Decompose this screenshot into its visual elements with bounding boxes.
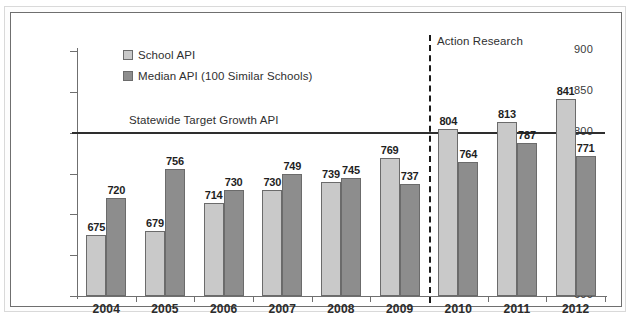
bar-2007-school-api[interactable] [262,190,282,296]
bar-2009-median-api[interactable] [400,184,420,296]
bar-2004-school-api[interactable] [86,235,106,296]
bar-2004-median-api[interactable] [106,198,126,296]
bar-value-label-2010-school-api: 804 [433,115,463,127]
bar-2010-median-api[interactable] [458,162,478,296]
figure-inner-border: School API Median API (100 Similar Schoo… [10,12,622,307]
action-research-divider-line [429,35,431,303]
x-axis-tick-mark [253,296,254,302]
x-axis-category-label-2004: 2004 [77,302,136,316]
bar-2008-median-api[interactable] [341,178,361,296]
y-tick-mark [70,92,77,93]
y-tick-mark [70,214,77,215]
bar-value-label-2011-school-api: 813 [492,108,522,120]
x-axis-category-label-2010: 2010 [429,302,488,316]
bar-group-2012: 841771 [556,51,596,296]
bar-2011-school-api[interactable] [497,122,517,296]
bar-group-2007: 730749 [262,51,302,296]
bar-group-2011: 813787 [497,51,537,296]
x-axis-category-label-2011: 2011 [488,302,547,316]
plot-area: 900850800750700650600Statewide Target Gr… [77,51,605,296]
x-axis-tick-mark [136,296,137,302]
bar-group-2009: 769737 [380,51,420,296]
bar-group-2010: 804764 [438,51,478,296]
y-tick-mark [70,296,77,297]
x-axis-category-label-2005: 2005 [136,302,195,316]
x-axis-tick-mark [546,296,547,302]
bar-value-label-2005-median-api: 756 [160,155,190,167]
bar-value-label-2011-median-api: 787 [512,129,542,141]
bar-2005-median-api[interactable] [165,169,185,296]
bar-2006-median-api[interactable] [224,190,244,296]
x-axis-category-label-2008: 2008 [312,302,371,316]
bar-value-label-2010-median-api: 764 [453,148,483,160]
x-axis-tick-mark [370,296,371,302]
bar-2007-median-api[interactable] [282,174,302,296]
bar-value-label-2012-median-api: 771 [571,142,601,154]
bar-value-label-2008-median-api: 745 [336,164,366,176]
bar-value-label-2006-median-api: 730 [219,176,249,188]
y-tick-mark [70,255,77,256]
bar-group-2006: 714730 [204,51,244,296]
x-axis-tick-mark [605,296,606,302]
bar-value-label-2004-median-api: 720 [101,184,131,196]
x-axis-category-label-2007: 2007 [253,302,312,316]
x-axis-tick-mark [488,296,489,302]
bar-2011-median-api[interactable] [517,143,537,296]
bar-2012-school-api[interactable] [556,99,576,296]
bar-value-label-2009-school-api: 769 [375,144,405,156]
action-research-divider-label: Action Research [437,35,523,47]
bar-value-label-2007-median-api: 749 [277,160,307,172]
bar-2008-school-api[interactable] [321,182,341,296]
x-axis-tick-mark [312,296,313,302]
x-axis-tick-mark [194,296,195,302]
x-axis-category-label-2009: 2009 [370,302,429,316]
bar-group-2008: 739745 [321,51,361,296]
bar-2012-median-api[interactable] [576,156,596,296]
bar-value-label-2012-school-api: 841 [551,85,581,97]
x-axis-category-label-2012: 2012 [546,302,605,316]
x-axis-category-label-2006: 2006 [194,302,253,316]
bar-group-2004: 675720 [86,51,126,296]
y-tick-mark [70,174,77,175]
bar-2006-school-api[interactable] [204,203,224,296]
bar-value-label-2009-median-api: 737 [395,170,425,182]
y-tick-mark [70,51,77,52]
x-axis-line [73,296,607,297]
chart-figure: School API Median API (100 Similar Schoo… [0,0,634,320]
bar-2005-school-api[interactable] [145,231,165,296]
bar-group-2005: 679756 [145,51,185,296]
